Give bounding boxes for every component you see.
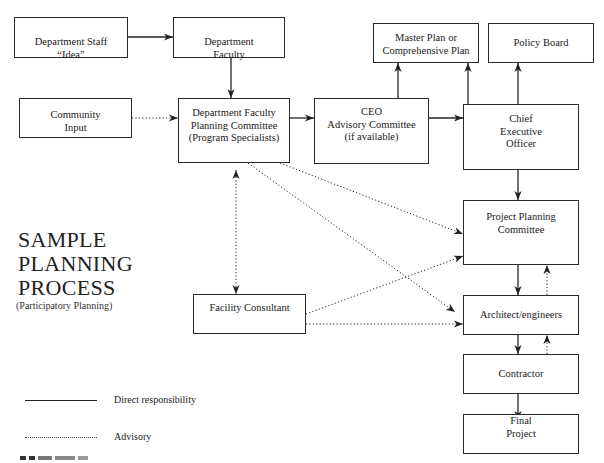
- node-dept-faculty: DepartmentFaculty: [173, 17, 285, 58]
- cropped-caption-fragment: [20, 456, 120, 463]
- node-label: Input: [64, 122, 86, 135]
- node-label: Contractor: [499, 368, 544, 381]
- node-label: Department Faculty: [192, 107, 276, 120]
- node-label: Committee: [498, 224, 545, 237]
- node-facility-consultant: Facility Consultant: [193, 294, 306, 334]
- arrowhead-icon: [453, 256, 463, 263]
- node-policy-board: Policy Board: [488, 23, 594, 63]
- node-ceo: ChiefExecutiveOfficer: [463, 104, 579, 170]
- diagram-title: SAMPLE PLANNING PROCESS: [18, 228, 133, 300]
- node-label: (Program Specialists): [189, 132, 280, 145]
- title-line-2: PLANNING: [18, 252, 133, 276]
- node-label: Department Staff: [35, 36, 107, 49]
- title-line-1: SAMPLE: [18, 228, 133, 252]
- node-dfpc: Department FacultyPlanning Committee(Pro…: [178, 98, 290, 163]
- node-final-project: FinalProject: [463, 414, 579, 454]
- node-label: Comprehensive Plan: [382, 45, 469, 58]
- node-label: Community: [50, 109, 100, 122]
- arrowhead-icon: [543, 265, 550, 274]
- node-label: Executive: [500, 126, 542, 139]
- node-label: Project: [506, 428, 536, 441]
- legend-advisory-label: Advisory: [114, 431, 151, 442]
- arrowhead-icon: [454, 320, 463, 327]
- node-label: Advisory Committee: [327, 119, 415, 132]
- legend-dotted-line: [25, 437, 97, 438]
- node-label: “Idea”: [57, 49, 84, 62]
- node-label: Chief: [509, 113, 532, 126]
- node-label: Project Planning: [486, 211, 556, 224]
- node-label: (if available): [345, 131, 399, 144]
- node-master-plan: Master Plan orComprehensive Plan: [373, 23, 479, 63]
- node-project-planning: Project PlanningCommittee: [463, 200, 579, 265]
- node-ceo-advisory: CEOAdvisory Committee(if available): [314, 98, 429, 164]
- edge-dfpc-to-architect: [248, 163, 455, 312]
- node-label: Architect/engineers: [480, 309, 562, 322]
- node-label: Department: [204, 36, 254, 49]
- node-label: Faculty: [213, 49, 245, 62]
- title-line-3: PROCESS: [18, 276, 133, 300]
- node-label: Policy Board: [513, 37, 568, 50]
- edge-dfpc-to-project-planning: [280, 163, 463, 234]
- node-label: Officer: [506, 138, 536, 151]
- node-dept-staff: Department Staff“Idea”: [14, 17, 128, 58]
- diagram-subtitle: (Participatory Planning): [16, 300, 112, 311]
- node-community-input: CommunityInput: [19, 98, 132, 138]
- node-label: Final: [510, 415, 532, 428]
- legend-solid-line: [25, 400, 97, 401]
- arrowhead-icon: [446, 304, 455, 312]
- node-label: Master Plan or: [395, 32, 457, 45]
- node-label: Planning Committee: [191, 120, 278, 133]
- legend-direct-label: Direct responsibility: [114, 394, 196, 405]
- node-contractor: Contractor: [463, 354, 579, 394]
- node-label: CEO: [361, 106, 382, 119]
- node-architect: Architect/engineers: [463, 295, 579, 335]
- node-label: Facility Consultant: [209, 302, 289, 315]
- edge-facility-consultant-to-project-planning: [306, 256, 463, 314]
